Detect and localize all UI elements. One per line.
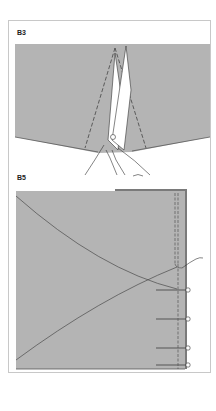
illustration <box>0 0 216 411</box>
